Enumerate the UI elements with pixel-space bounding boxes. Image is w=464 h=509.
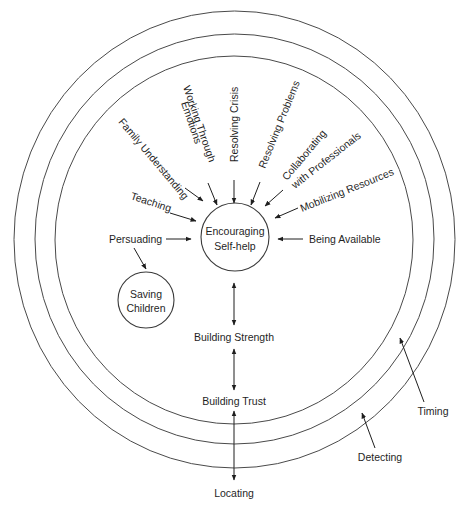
label-detecting: Detecting bbox=[358, 451, 403, 463]
label-timing: Timing bbox=[417, 405, 448, 417]
arrow-resolving-problems bbox=[251, 182, 260, 205]
label-persuading: Persuading bbox=[109, 233, 162, 245]
encouraging-self-help-node bbox=[201, 203, 269, 271]
arrow-timing bbox=[400, 338, 424, 402]
center-node-line1: Encouraging bbox=[206, 225, 265, 237]
diagram-canvas: Encouraging Self-help Saving Children Fa… bbox=[0, 0, 464, 509]
label-being-available: Being Available bbox=[309, 233, 381, 245]
arrow-teaching bbox=[170, 213, 196, 221]
label-teaching: Teaching bbox=[129, 189, 173, 213]
saving-children-node bbox=[118, 272, 174, 328]
arrow-working-through bbox=[208, 183, 217, 205]
saving-children-line2: Children bbox=[126, 302, 165, 314]
diagram-svg: Encouraging Self-help Saving Children Fa… bbox=[0, 0, 464, 509]
arrow-collaborating bbox=[265, 190, 283, 206]
label-building-strength: Building Strength bbox=[194, 331, 274, 343]
arrow-persuading-to-saving bbox=[134, 248, 146, 269]
arrow-detecting bbox=[362, 413, 375, 448]
arrow-mobilizing bbox=[275, 208, 298, 218]
saving-children-line1: Saving bbox=[130, 288, 162, 300]
label-locating: Locating bbox=[214, 487, 254, 499]
label-family-understanding: Family Understanding bbox=[116, 116, 191, 202]
center-node-line2: Self-help bbox=[214, 240, 256, 252]
label-resolving-crisis: Resolving Crisis bbox=[228, 87, 240, 162]
label-building-trust: Building Trust bbox=[202, 395, 266, 407]
